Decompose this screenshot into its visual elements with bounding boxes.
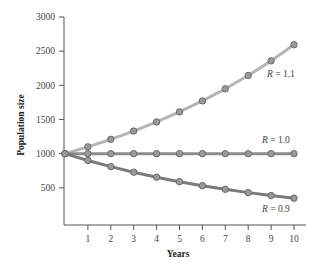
- data-point-marker: [153, 150, 159, 156]
- data-point-marker: [222, 186, 228, 192]
- data-point-marker: [291, 195, 297, 201]
- x-tick-label: 10: [289, 234, 299, 244]
- data-point-marker: [291, 150, 297, 156]
- data-point-marker: [268, 150, 274, 156]
- data-point-marker: [108, 150, 114, 156]
- series-group: [62, 42, 297, 202]
- data-point-marker: [222, 150, 228, 156]
- x-tick-label: 3: [131, 234, 136, 244]
- y-tick-label: 1000: [36, 149, 55, 159]
- line-path: [65, 154, 294, 198]
- series-line-3: [62, 150, 297, 201]
- line-path: [65, 45, 294, 154]
- data-point-marker: [85, 150, 91, 156]
- x-tick-label: 1: [86, 234, 91, 244]
- data-point-marker: [176, 150, 182, 156]
- x-tick-label: 6: [200, 234, 205, 244]
- x-tick-label: 9: [269, 234, 274, 244]
- x-tick-label: 2: [108, 234, 113, 244]
- data-point-marker: [85, 157, 91, 163]
- data-point-marker: [108, 136, 114, 142]
- y-tick-label: 2000: [36, 81, 55, 91]
- y-tick-label: 500: [41, 183, 56, 193]
- y-tick-label: 3000: [36, 12, 55, 22]
- data-point-marker: [131, 150, 137, 156]
- data-point-marker: [199, 98, 205, 104]
- data-point-marker: [85, 144, 91, 150]
- x-tick-label: 4: [154, 234, 159, 244]
- y-tick-label: 1500: [36, 115, 55, 125]
- series-line-2: [62, 150, 297, 156]
- data-point-marker: [222, 86, 228, 92]
- x-tick-label: 5: [177, 234, 182, 244]
- data-point-marker: [176, 178, 182, 184]
- data-point-marker: [176, 109, 182, 115]
- x-tick-label: 7: [223, 234, 228, 244]
- data-point-marker: [108, 163, 114, 169]
- y-tick-label: 2500: [36, 46, 55, 56]
- data-point-marker: [153, 119, 159, 125]
- data-point-marker: [62, 150, 68, 156]
- x-axis-title: Years: [167, 249, 190, 259]
- data-point-marker: [268, 192, 274, 198]
- data-point-marker: [131, 169, 137, 175]
- data-point-marker: [153, 174, 159, 180]
- data-point-marker: [245, 150, 251, 156]
- x-tick-label: 8: [246, 234, 251, 244]
- data-point-marker: [245, 72, 251, 78]
- series-label-3: R = 0.9: [261, 204, 290, 214]
- series-label-2: R = 1.0: [261, 135, 290, 145]
- data-point-marker: [245, 189, 251, 195]
- data-point-marker: [199, 183, 205, 189]
- series-label-1: R = 1.1: [266, 69, 295, 79]
- data-point-marker: [131, 128, 137, 134]
- series-labels: R = 1.1R = 1.0R = 0.9: [261, 69, 295, 214]
- y-axis-title: Population size: [16, 94, 26, 156]
- data-point-marker: [268, 58, 274, 64]
- data-point-marker: [199, 150, 205, 156]
- data-point-marker: [291, 42, 297, 48]
- population-growth-chart: 5001000150020002500300012345678910 R = 1…: [0, 0, 321, 273]
